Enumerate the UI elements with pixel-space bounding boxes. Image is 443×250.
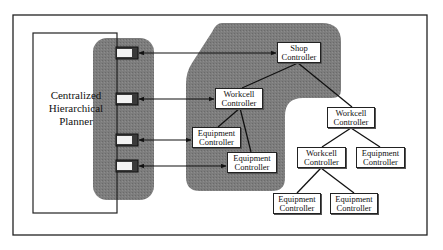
workcell-controller-3: Workcell Controller [297,147,346,168]
planner-label-line-1: Centralized [33,89,119,102]
equipment-controller-3: Equipment Controller [356,147,405,168]
planner-port-1 [116,47,138,59]
node-label-line: Controller [337,204,372,213]
planner-port-3 [116,134,138,146]
planner-port-4 [116,160,138,172]
planner-port-2 [116,93,138,105]
equipment-controller-2: Equipment Controller [227,152,277,173]
equipment-controller-1: Equipment Controller [192,127,241,148]
node-label-line: Controller [363,158,398,167]
planner-label-line-3: Planner [33,115,119,128]
planner-label: Centralized Hierarchical Planner [33,89,119,128]
node-label-line: Controller [304,158,339,167]
node-label-line: Controller [199,138,234,147]
workcell-controller-1: Workcell Controller [215,88,263,109]
node-label-line: Controller [282,53,317,62]
node-label-line: Controller [235,163,270,172]
shop-controller: Shop Controller [277,42,321,63]
planner-label-line-2: Hierarchical [33,102,119,115]
node-label-line: Controller [280,204,315,213]
node-label-line: Controller [334,118,369,127]
workcell-controller-2: Workcell Controller [327,107,375,128]
equipment-controller-4: Equipment Controller [273,193,321,214]
equipment-controller-5: Equipment Controller [330,193,378,214]
node-label-line: Controller [222,99,257,108]
